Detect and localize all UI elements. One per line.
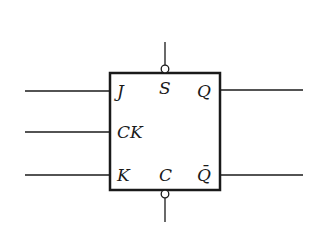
label-q: Q [197,81,211,101]
label-c: C [159,165,172,185]
label-j: J [114,81,125,101]
jk-flip-flop-diagram: J CK K S C Q Q̄ [0,0,326,246]
clear-inversion-bubble [161,190,169,198]
label-k: K [116,165,131,185]
label-q-bar: Q̄ [197,164,211,185]
set-inversion-bubble [161,65,169,73]
label-ck: CK [117,122,144,142]
label-s: S [159,78,171,98]
